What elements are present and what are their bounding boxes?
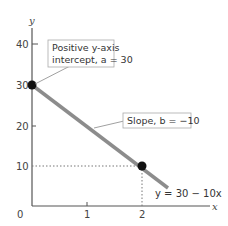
x-tick-label-1: 1 bbox=[84, 209, 90, 220]
y-tick-label-10: 10 bbox=[16, 161, 29, 172]
intercept-leader-line bbox=[35, 66, 70, 84]
line-y-equals-30-minus-10x bbox=[32, 85, 168, 188]
origin-label: 0 bbox=[17, 209, 23, 220]
y-tick-label-30: 30 bbox=[16, 80, 29, 91]
y-axis-title: y bbox=[28, 15, 35, 26]
slope-annotation-text: Slope, b = −10 bbox=[127, 115, 199, 126]
linear-equation-chart: Positive y-axis intercept, a = 30 Slope,… bbox=[0, 0, 228, 226]
intercept-annotation-line1: Positive y-axis bbox=[52, 42, 120, 53]
x-tick-label-2: 2 bbox=[139, 209, 145, 220]
x-axis-title: x bbox=[212, 201, 218, 212]
equation-label: y = 30 − 10x bbox=[155, 188, 222, 199]
point-intercept bbox=[28, 81, 37, 90]
y-tick-label-40: 40 bbox=[16, 39, 29, 50]
y-tick-label-20: 20 bbox=[16, 121, 29, 132]
point-x2-y10 bbox=[138, 162, 147, 171]
intercept-annotation-line2: intercept, a = 30 bbox=[52, 54, 133, 65]
slope-leader-line bbox=[94, 121, 124, 128]
